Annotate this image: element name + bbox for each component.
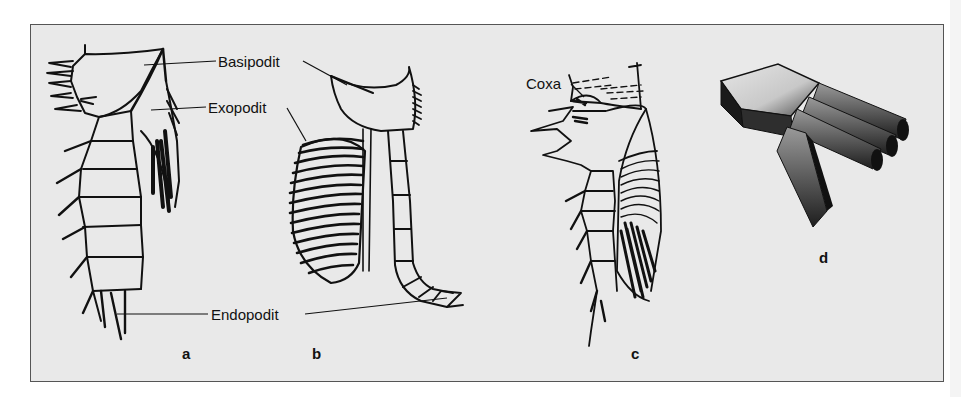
panel-label-b: b: [312, 346, 321, 361]
leg-b-drawing: [290, 67, 463, 307]
figure-artwork: [31, 25, 945, 383]
panel-label-a: a: [182, 346, 190, 361]
label-basipodit: Basipodit: [218, 54, 280, 69]
label-endopodit: Endopodit: [211, 307, 279, 322]
label-exopodit: Exopodit: [208, 100, 266, 115]
block-model-d: [721, 61, 911, 231]
label-coxa: Coxa: [526, 76, 561, 91]
panel-label-c: c: [631, 346, 639, 361]
leg-c-drawing: [531, 63, 661, 346]
page-gutter: [950, 0, 961, 397]
leg-a-drawing: [47, 45, 179, 339]
panel-label-d: d: [819, 250, 828, 265]
figure-frame: Basipodit Exopodit Endopodit Coxa a b c …: [30, 24, 944, 382]
